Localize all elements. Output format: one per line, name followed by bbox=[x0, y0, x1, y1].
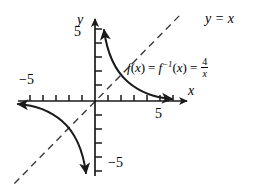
y-axis-tick-label-positive-five: 5 bbox=[74, 25, 81, 39]
inverse-paren-close: ) bbox=[183, 60, 187, 75]
function-equation-label: f(x)=f−1(x)=4x bbox=[127, 58, 208, 80]
identity-line-y-equals-x bbox=[6, 13, 182, 184]
function-graph-figure: y x 5 −5 5 −5 y = x f(x)=f−1(x)=4x bbox=[0, 0, 254, 184]
equals-sign-first: = bbox=[148, 60, 155, 75]
fraction-numerator: 4 bbox=[201, 57, 208, 68]
fraction-denominator: x bbox=[201, 68, 208, 79]
x-axis-tick-label-negative-five: −5 bbox=[19, 73, 34, 87]
curve-branch-quadrant-3 bbox=[18, 104, 86, 173]
fraction-four-over-x: 4x bbox=[201, 57, 208, 79]
x-axis-tick-label-positive-five: 5 bbox=[155, 107, 162, 121]
y-axis-ticks bbox=[95, 29, 102, 171]
inverse-exponent: −1 bbox=[162, 59, 172, 69]
graph-canvas bbox=[0, 0, 254, 184]
paren-close: ) bbox=[141, 60, 145, 75]
equals-sign-second: = bbox=[190, 60, 197, 75]
identity-line-label: y = x bbox=[205, 12, 234, 26]
x-axis-label: x bbox=[188, 84, 194, 98]
y-axis-tick-label-negative-five: −5 bbox=[108, 156, 123, 170]
